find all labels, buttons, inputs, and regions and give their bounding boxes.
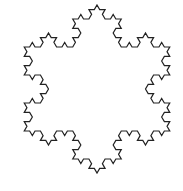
koch-snowflake-outline bbox=[24, 5, 170, 173]
koch-snowflake-figure bbox=[0, 0, 183, 191]
